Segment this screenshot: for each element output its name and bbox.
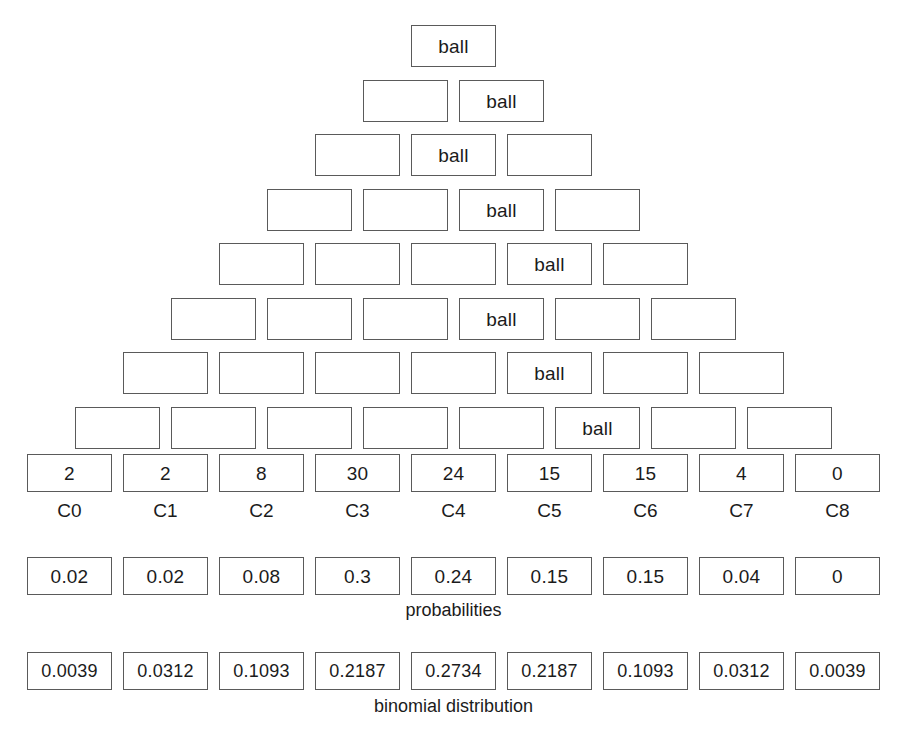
binomial-cell-8[interactable]: 0.0039	[795, 652, 880, 690]
ball-cell-row-4[interactable]: ball	[507, 243, 592, 285]
empty-cell-row-3-col-0[interactable]	[267, 189, 352, 231]
pyramid-row-4: ball	[0, 243, 907, 285]
empty-cell-row-7-col-6[interactable]	[651, 407, 736, 449]
bin-label-C6: C6	[603, 500, 688, 522]
ball-cell-row-7[interactable]: ball	[555, 407, 640, 449]
pyramid-row-5: ball	[0, 298, 907, 340]
ball-cell-row-1[interactable]: ball	[459, 80, 544, 122]
empty-cell-row-5-col-2[interactable]	[363, 298, 448, 340]
empty-cell-row-3-col-1[interactable]	[363, 189, 448, 231]
binomial-cell-3[interactable]: 0.2187	[315, 652, 400, 690]
empty-cell-row-5-col-0[interactable]	[171, 298, 256, 340]
empty-cell-row-1-col-0[interactable]	[363, 80, 448, 122]
counts-row: 2283024151540	[0, 454, 907, 492]
probability-cell-1[interactable]: 0.02	[123, 557, 208, 595]
probability-cell-7[interactable]: 0.04	[699, 557, 784, 595]
empty-cell-row-7-col-4[interactable]	[459, 407, 544, 449]
empty-cell-row-6-col-1[interactable]	[219, 352, 304, 394]
empty-cell-row-7-col-0[interactable]	[75, 407, 160, 449]
binomial-distribution-row: 0.00390.03120.10930.21870.27340.21870.10…	[0, 652, 907, 690]
count-cell-C8[interactable]: 0	[795, 454, 880, 492]
count-cell-C5[interactable]: 15	[507, 454, 592, 492]
pyramid-row-1: ball	[0, 80, 907, 122]
count-cell-C4[interactable]: 24	[411, 454, 496, 492]
bin-labels-row: C0C1C2C3C4C5C6C7C8	[0, 500, 907, 522]
bin-label-C7: C7	[699, 500, 784, 522]
ball-cell-row-0[interactable]: ball	[411, 25, 496, 67]
empty-cell-row-4-col-2[interactable]	[411, 243, 496, 285]
binomial-cell-1[interactable]: 0.0312	[123, 652, 208, 690]
ball-cell-row-6[interactable]: ball	[507, 352, 592, 394]
binomial-cell-0[interactable]: 0.0039	[27, 652, 112, 690]
probability-cell-3[interactable]: 0.3	[315, 557, 400, 595]
count-cell-C6[interactable]: 15	[603, 454, 688, 492]
empty-cell-row-6-col-6[interactable]	[699, 352, 784, 394]
bin-label-C5: C5	[507, 500, 592, 522]
probability-cell-8[interactable]: 0	[795, 557, 880, 595]
probability-cell-0[interactable]: 0.02	[27, 557, 112, 595]
empty-cell-row-5-col-4[interactable]	[555, 298, 640, 340]
empty-cell-row-2-col-2[interactable]	[507, 134, 592, 176]
binomial-cell-6[interactable]: 0.1093	[603, 652, 688, 690]
bin-label-C3: C3	[315, 500, 400, 522]
bin-label-C4: C4	[411, 500, 496, 522]
empty-cell-row-7-col-2[interactable]	[267, 407, 352, 449]
count-cell-C1[interactable]: 2	[123, 454, 208, 492]
probability-cell-2[interactable]: 0.08	[219, 557, 304, 595]
pyramid-row-7: ball	[0, 407, 907, 449]
empty-cell-row-4-col-4[interactable]	[603, 243, 688, 285]
binomial-cell-4[interactable]: 0.2734	[411, 652, 496, 690]
empty-cell-row-6-col-2[interactable]	[315, 352, 400, 394]
pyramid-row-0: ball	[0, 25, 907, 67]
bin-label-C2: C2	[219, 500, 304, 522]
probabilities-row: 0.020.020.080.30.240.150.150.040	[0, 557, 907, 595]
empty-cell-row-2-col-0[interactable]	[315, 134, 400, 176]
empty-cell-row-6-col-3[interactable]	[411, 352, 496, 394]
pyramid-row-2: ball	[0, 134, 907, 176]
bin-label-C1: C1	[123, 500, 208, 522]
count-cell-C0[interactable]: 2	[27, 454, 112, 492]
probability-cell-5[interactable]: 0.15	[507, 557, 592, 595]
empty-cell-row-4-col-1[interactable]	[315, 243, 400, 285]
ball-cell-row-3[interactable]: ball	[459, 189, 544, 231]
empty-cell-row-7-col-3[interactable]	[363, 407, 448, 449]
bin-label-C8: C8	[795, 500, 880, 522]
empty-cell-row-6-col-0[interactable]	[123, 352, 208, 394]
binomial-cell-7[interactable]: 0.0312	[699, 652, 784, 690]
empty-cell-row-4-col-0[interactable]	[219, 243, 304, 285]
count-cell-C7[interactable]: 4	[699, 454, 784, 492]
ball-cell-row-2[interactable]: ball	[411, 134, 496, 176]
empty-cell-row-5-col-1[interactable]	[267, 298, 352, 340]
empty-cell-row-6-col-5[interactable]	[603, 352, 688, 394]
probabilities-caption: probabilities	[0, 600, 907, 621]
probability-cell-6[interactable]: 0.15	[603, 557, 688, 595]
binomial-cell-2[interactable]: 0.1093	[219, 652, 304, 690]
pyramid-row-3: ball	[0, 189, 907, 231]
empty-cell-row-7-col-1[interactable]	[171, 407, 256, 449]
ball-cell-row-5[interactable]: ball	[459, 298, 544, 340]
empty-cell-row-3-col-3[interactable]	[555, 189, 640, 231]
count-cell-C2[interactable]: 8	[219, 454, 304, 492]
empty-cell-row-7-col-7[interactable]	[747, 407, 832, 449]
count-cell-C3[interactable]: 30	[315, 454, 400, 492]
probability-cell-4[interactable]: 0.24	[411, 557, 496, 595]
binomial-distribution-caption: binomial distribution	[0, 696, 907, 717]
bin-label-C0: C0	[27, 500, 112, 522]
pyramid-row-6: ball	[0, 352, 907, 394]
empty-cell-row-5-col-5[interactable]	[651, 298, 736, 340]
binomial-cell-5[interactable]: 0.2187	[507, 652, 592, 690]
galton-board-diagram: ballballballballballballballball22830241…	[0, 0, 907, 742]
